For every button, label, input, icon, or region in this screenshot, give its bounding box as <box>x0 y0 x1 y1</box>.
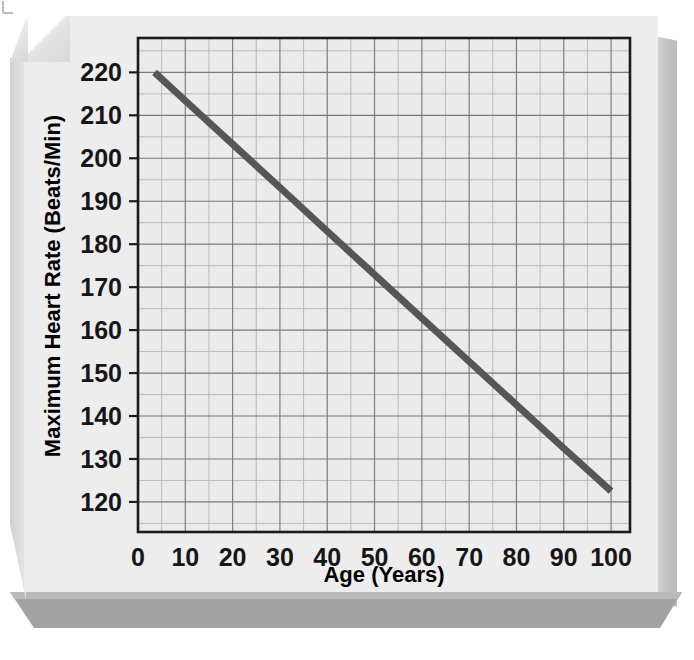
y-tick-label: 160 <box>80 316 122 344</box>
y-tick-label: 140 <box>80 402 122 430</box>
page-corner-mark <box>2 1 13 14</box>
y-axis-ticks <box>129 72 138 502</box>
x-tick-label: 90 <box>550 543 578 571</box>
y-tick-label: 120 <box>80 488 122 516</box>
x-tick-label: 20 <box>219 543 247 571</box>
y-axis-title: Maximum Heart Rate (Beats/Min) <box>40 115 65 457</box>
y-tick-label: 150 <box>80 359 122 387</box>
line-chart: 120130140150160170180190200210220 010203… <box>24 16 658 616</box>
y-tick-label: 210 <box>80 101 122 129</box>
x-axis-title: Age (Years) <box>323 562 444 587</box>
chart-figure: 120130140150160170180190200210220 010203… <box>0 0 694 660</box>
y-tick-label: 170 <box>80 273 122 301</box>
panel-right-edge <box>655 36 677 607</box>
x-tick-label: 10 <box>171 543 199 571</box>
y-tick-label: 190 <box>80 187 122 215</box>
x-tick-label: 30 <box>266 543 294 571</box>
x-tick-label: 0 <box>131 543 145 571</box>
x-tick-label: 80 <box>503 543 531 571</box>
x-tick-label: 70 <box>455 543 483 571</box>
x-tick-label: 100 <box>590 543 632 571</box>
y-axis-tick-labels: 120130140150160170180190200210220 <box>80 58 122 516</box>
y-tick-label: 180 <box>80 230 122 258</box>
y-tick-label: 220 <box>80 58 122 86</box>
y-tick-label: 200 <box>80 144 122 172</box>
y-tick-label: 130 <box>80 445 122 473</box>
